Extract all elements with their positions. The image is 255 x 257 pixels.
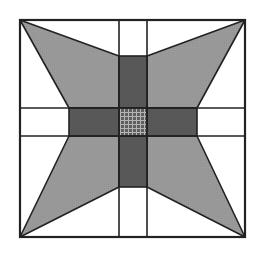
center-check-square <box>119 108 147 136</box>
quilt-block-svg <box>0 0 255 257</box>
quilt-block-figure <box>0 0 255 257</box>
